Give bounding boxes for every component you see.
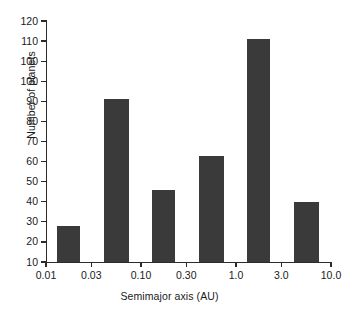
y-axis-tick-label: 120 bbox=[0, 16, 38, 26]
histogram-bar bbox=[104, 99, 129, 262]
y-axis-tick-label: 100 bbox=[0, 56, 38, 66]
y-axis-tick-label: 90 bbox=[0, 96, 38, 106]
x-axis-tick-label: 10.0 bbox=[309, 270, 346, 281]
plot-area bbox=[46, 21, 331, 262]
x-axis-tick-label: 1.0 bbox=[214, 270, 258, 281]
y-axis-tick-label: 20 bbox=[0, 236, 38, 246]
y-axis-tick-label: 40 bbox=[0, 196, 38, 206]
x-axis-title: Semimajor axis (AU) bbox=[0, 290, 339, 302]
y-axis-tick-label: 110 bbox=[0, 36, 38, 46]
y-axis-tick-label: 100 bbox=[0, 76, 38, 86]
y-axis-tick-label: 60 bbox=[0, 156, 38, 166]
y-axis-tick-label: 70 bbox=[0, 136, 38, 146]
x-axis-tick-label: 3.0 bbox=[259, 270, 303, 281]
histogram-bar bbox=[57, 226, 80, 262]
y-axis-tick-label: 10 bbox=[0, 257, 38, 267]
x-axis-tick bbox=[45, 262, 46, 267]
x-axis-tick-label: 0.03 bbox=[69, 270, 113, 281]
x-axis-tick bbox=[140, 262, 141, 267]
x-axis-tick bbox=[281, 262, 282, 267]
histogram-bar bbox=[199, 156, 224, 262]
x-axis-tick bbox=[330, 262, 331, 267]
histogram-bar bbox=[294, 202, 319, 262]
histogram-bar bbox=[247, 39, 270, 262]
x-axis-tick-label: 0.10 bbox=[119, 270, 163, 281]
y-axis-tick-label: 50 bbox=[0, 176, 38, 186]
x-axis-tick bbox=[235, 262, 236, 267]
y-axis-tick-label: 80 bbox=[0, 116, 38, 126]
y-axis-tick-label: 30 bbox=[0, 216, 38, 226]
histogram-bar bbox=[152, 190, 175, 262]
x-axis-tick-label: 0.01 bbox=[24, 270, 68, 281]
x-axis-tick-label: 0.30 bbox=[164, 270, 208, 281]
x-axis-tick bbox=[186, 262, 187, 267]
x-axis-tick bbox=[91, 262, 92, 267]
